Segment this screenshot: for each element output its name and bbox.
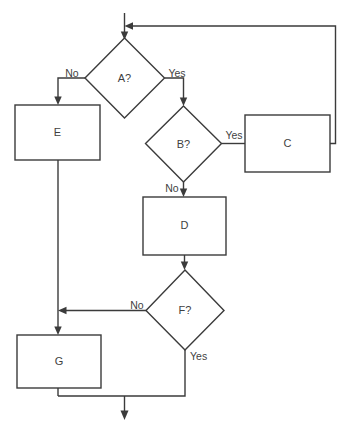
node-process-g[interactable]: G <box>17 335 101 388</box>
node-label-d: D <box>181 219 189 231</box>
node-process-c[interactable]: C <box>245 115 330 172</box>
node-label-f: F? <box>179 304 192 316</box>
flowchart-canvas: A? B? F? E C D G <box>0 0 349 427</box>
edge-a-no-to-e <box>54 78 85 105</box>
flowchart-diagram: A? B? F? E C D G <box>0 0 349 427</box>
edge-end-terminal <box>121 396 129 420</box>
edge-label-a-yes: Yes <box>168 67 185 79</box>
node-label-e: E <box>54 126 61 138</box>
node-process-e[interactable]: E <box>15 105 100 160</box>
node-label-c: C <box>284 137 292 149</box>
edge-d-to-f <box>181 255 188 270</box>
edge-label-f-no: No <box>130 299 144 311</box>
node-process-d[interactable]: D <box>143 197 226 255</box>
edge-label-b-yes: Yes <box>225 129 242 141</box>
edge-label-b-no: No <box>165 182 179 194</box>
edge-label-f-yes: Yes <box>190 350 207 362</box>
node-label-g: G <box>55 355 64 367</box>
node-label-b: B? <box>177 138 190 150</box>
edge-a-yes-to-b <box>165 78 188 106</box>
edge-label-a-no: No <box>65 67 79 79</box>
node-decision-f[interactable]: F? <box>146 270 224 350</box>
edge-b-no-to-d <box>180 182 187 197</box>
node-label-a: A? <box>118 72 131 84</box>
edge-e-to-g <box>54 160 61 335</box>
node-decision-b[interactable]: B? <box>146 106 222 182</box>
